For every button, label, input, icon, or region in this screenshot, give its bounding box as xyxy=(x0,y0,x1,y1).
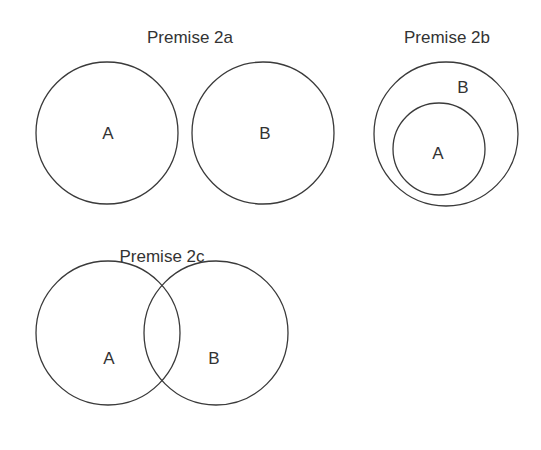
circle-a-label: A xyxy=(432,144,444,163)
circle-b xyxy=(144,261,288,405)
premise-2c-diagram: Premise 2c A B xyxy=(36,247,288,405)
circle-a xyxy=(36,261,180,405)
premise-2b-diagram: Premise 2b B A xyxy=(374,28,518,206)
circle-b-label: B xyxy=(457,78,468,97)
circle-a-label: A xyxy=(102,124,114,143)
circle-a-label: A xyxy=(103,349,115,368)
circle-b-label: B xyxy=(208,349,219,368)
premise-2c-title: Premise 2c xyxy=(119,247,205,266)
premise-2b-title: Premise 2b xyxy=(404,28,490,47)
circle-b-label: B xyxy=(259,124,270,143)
premise-2a-title: Premise 2a xyxy=(147,28,234,47)
venn-diagrams: Premise 2a A B Premise 2b B A Premise 2c… xyxy=(0,0,541,450)
premise-2a-diagram: Premise 2a A B xyxy=(36,28,334,204)
